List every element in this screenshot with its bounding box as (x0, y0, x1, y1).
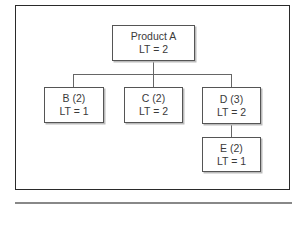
node-name: C (2) (142, 92, 165, 105)
node-b: B (2) LT = 1 (44, 87, 104, 123)
node-lead-time: LT = 2 (139, 43, 168, 56)
node-name: Product A (131, 30, 177, 43)
connector-root-down (153, 61, 154, 74)
node-e: E (2) LT = 1 (202, 137, 261, 172)
node-name: B (2) (63, 92, 86, 105)
node-name: D (3) (220, 93, 243, 106)
connector-d (231, 74, 232, 87)
node-lead-time: LT = 1 (217, 155, 246, 168)
connector-b (73, 74, 74, 87)
node-c: C (2) LT = 2 (124, 87, 183, 123)
node-lead-time: LT = 1 (59, 105, 88, 118)
node-lead-time: LT = 2 (217, 106, 246, 119)
node-name: E (2) (220, 142, 243, 155)
connector-d-e (231, 124, 232, 137)
node-lead-time: LT = 2 (139, 105, 168, 118)
bottom-rule (15, 202, 292, 204)
node-d: D (3) LT = 2 (202, 87, 261, 124)
connector-c (153, 74, 154, 87)
node-product-a: Product A LT = 2 (112, 25, 195, 61)
